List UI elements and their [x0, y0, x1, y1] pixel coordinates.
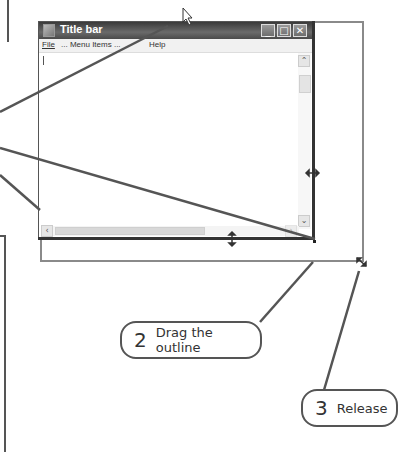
callout-label: Drag the outline: [156, 325, 260, 355]
callout-release: 3 Release: [301, 389, 398, 427]
annotation-lines: [0, 0, 410, 452]
resize-diagonal-cursor-icon: [357, 258, 366, 266]
callout-label: Release: [337, 401, 388, 416]
mouse-pointer-icon: [183, 8, 192, 25]
resize-vertical-cursor-icon: [229, 232, 235, 246]
callout-number: 2: [134, 328, 147, 352]
callout-drag-outline: 2 Drag the outline: [120, 321, 262, 359]
resize-horizontal-cursor-icon: [306, 170, 319, 176]
callout-number: 3: [315, 396, 328, 420]
